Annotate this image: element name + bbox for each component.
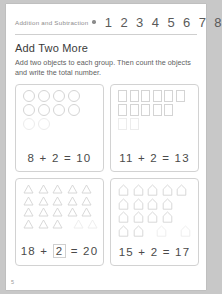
shape-row: [20, 104, 99, 116]
triangle-shape: [38, 184, 49, 194]
shape-row: [115, 184, 194, 196]
equation-plus: +: [40, 245, 48, 257]
house-shape: [118, 198, 129, 210]
page-number: 5: [11, 279, 14, 285]
header-divider: [15, 34, 197, 35]
header-subject-label: Addition and Subtraction: [15, 19, 88, 26]
circle-shape: [38, 90, 50, 102]
square-shape: [130, 90, 139, 102]
equation: 15 + 2 = 17: [111, 246, 198, 258]
exercise-grid: 8 + 2 = 1011 + 2 = 1318 + 2 = 2015 + 2 =…: [15, 84, 199, 266]
equation: 11 + 2 = 13: [111, 152, 198, 164]
triangle-shape: [52, 196, 63, 206]
equation-equals: =: [163, 246, 171, 258]
exercise-card[interactable]: 15 + 2 = 17: [110, 178, 199, 266]
circle-shape: [23, 90, 35, 102]
triangle-shape: [52, 219, 63, 229]
exercise-card[interactable]: 8 + 2 = 10: [15, 84, 104, 172]
square-shape: [153, 104, 162, 116]
equation-total: 13: [175, 152, 190, 164]
equation-addend: 2: [53, 244, 67, 258]
shape-row: [115, 118, 194, 130]
equation-total: 17: [175, 246, 190, 258]
shape-row: [115, 211, 194, 223]
triangle-shape: [52, 184, 63, 194]
shape-row: [115, 225, 194, 237]
equation-start: 8: [28, 152, 36, 164]
shape-row: [115, 90, 194, 102]
triangle-shape: [81, 184, 92, 194]
equation-addend: 2: [52, 152, 60, 164]
house-shape: [180, 225, 191, 237]
triangle-shape: [81, 207, 92, 217]
triangle-shape: [23, 184, 34, 194]
triangle-shape: [38, 207, 49, 217]
square-shape: [141, 104, 150, 116]
filled-dot-icon: [92, 20, 95, 23]
equation-start: 11: [119, 152, 133, 164]
exercise-card[interactable]: 18 + 2 = 20: [15, 178, 104, 266]
equation-start: 18: [21, 245, 36, 257]
shape-row: [20, 184, 99, 194]
shape-group: [115, 90, 194, 148]
house-shape: [133, 198, 144, 210]
square-shape: [164, 90, 173, 102]
house-shape: [133, 184, 144, 196]
circle-shape: [38, 118, 50, 130]
equation-plus: +: [138, 246, 146, 258]
square-shape: [176, 90, 185, 102]
shape-row: [20, 90, 99, 102]
shape-group: [20, 90, 99, 148]
circle-shape: [68, 90, 80, 102]
equation-equals: =: [71, 245, 79, 257]
square-shape: [118, 118, 127, 130]
triangle-shape: [23, 196, 34, 206]
square-shape: [141, 90, 150, 102]
equation: 8 + 2 = 10: [16, 152, 103, 164]
header-number-sequence: 1 2 3 4 5 6 7 8: [105, 15, 211, 30]
triangle-shape: [81, 196, 92, 206]
house-shape: [147, 211, 158, 223]
shape-group: [115, 184, 194, 242]
page-title: Add Two More: [15, 42, 88, 54]
equation-addend: 2: [150, 152, 158, 164]
house-shape: [118, 211, 129, 223]
circle-shape: [53, 104, 65, 116]
shape-row: [20, 118, 99, 130]
shape-group: [20, 184, 99, 242]
triangle-shape: [23, 207, 34, 217]
shape-row: [115, 198, 194, 210]
square-shape: [130, 104, 139, 116]
equation-total: 10: [76, 152, 91, 164]
house-shape: [162, 184, 173, 196]
shape-row: [20, 207, 99, 217]
circle-shape: [23, 118, 35, 130]
equation-plus: +: [40, 152, 48, 164]
triangle-shape: [38, 196, 49, 206]
equation-equals: =: [162, 152, 170, 164]
equation: 18 + 2 = 20: [16, 244, 103, 258]
shape-row: [20, 219, 99, 229]
circle-shape: [23, 104, 35, 116]
square-shape: [153, 90, 162, 102]
triangle-shape: [23, 219, 34, 229]
circle-shape: [68, 104, 80, 116]
triangle-shape: [67, 196, 78, 206]
triangle-shape: [67, 207, 78, 217]
worksheet-page: Addition and Subtraction 1 2 3 4 5 6 7 8…: [6, 4, 206, 290]
house-shape: [156, 225, 167, 237]
triangle-shape: [67, 184, 78, 194]
shape-row: [20, 196, 99, 206]
house-shape: [118, 184, 129, 196]
equation-equals: =: [64, 152, 72, 164]
equation-start: 15: [119, 246, 134, 258]
square-shape: [118, 90, 127, 102]
circle-shape: [38, 104, 50, 116]
equation-total: 20: [83, 245, 98, 257]
house-shape: [176, 184, 187, 196]
house-shape: [133, 211, 144, 223]
house-shape: [147, 184, 158, 196]
exercise-card[interactable]: 11 + 2 = 13: [110, 84, 199, 172]
house-shape: [162, 198, 173, 210]
square-shape: [130, 118, 139, 130]
